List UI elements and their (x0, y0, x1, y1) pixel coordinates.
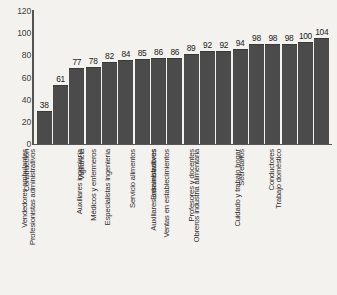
bar-value-label: 38 (40, 101, 49, 110)
bar-series: 38617778828485868689929294989898100104 (33, 11, 332, 144)
bar-value-label: 82 (105, 52, 114, 61)
bar (282, 44, 297, 144)
y-axis-tick-label: 80 (3, 50, 31, 60)
x-axis-category-labels: ConstrucciónVendedores ambulantesProfesi… (33, 147, 332, 293)
x-label-column (314, 147, 329, 293)
bar-value-label: 85 (138, 49, 147, 58)
bar-column: 98 (265, 11, 280, 144)
x-axis-category-label: Ventas en establecimientos (163, 149, 171, 238)
bar-value-label: 94 (236, 39, 245, 48)
bar (69, 68, 84, 144)
y-axis-tick-label: 20 (3, 117, 31, 127)
bar (135, 59, 150, 144)
bar (200, 51, 215, 144)
x-axis-category-label: Auxiliares administrativos (150, 149, 158, 231)
bar (167, 58, 182, 144)
bar-column: 84 (118, 11, 133, 144)
bar-value-label: 92 (203, 41, 212, 50)
y-axis-tick-label: 60 (3, 73, 31, 83)
x-label-column: Secretarios (249, 147, 264, 293)
bar-column: 86 (151, 11, 166, 144)
bar-column: 94 (233, 11, 248, 144)
bar-value-label: 84 (121, 50, 130, 59)
x-axis-category-label: Servicio alimentos (129, 149, 137, 208)
x-axis-category-label: Trabajo doméstico (276, 149, 284, 209)
bar-column: 86 (167, 11, 182, 144)
bar-value-label: 98 (268, 34, 277, 43)
bar-column: 78 (86, 11, 101, 144)
x-label-column: Especialistas ingeniería (135, 147, 150, 293)
bar (216, 51, 231, 144)
bar-chart: 020406080100120 386177788284858686899292… (0, 0, 337, 295)
bar (118, 60, 133, 144)
x-label-column: Trabajo doméstico (298, 147, 313, 293)
bar-column: 104 (314, 11, 329, 144)
bar (233, 49, 248, 144)
x-label-column: Profesores y docentes (216, 147, 231, 293)
x-label-column: Ventas en establecimientos (200, 147, 215, 293)
bar-column: 77 (69, 11, 84, 144)
bar-value-label: 77 (72, 58, 81, 67)
y-axis-tick-label: 40 (3, 95, 31, 105)
bar-column: 89 (184, 11, 199, 144)
bar (314, 38, 329, 144)
bar (37, 111, 52, 144)
x-axis-category-label: Cuidado y trabajo hogar (234, 149, 242, 227)
bar-value-label: 92 (219, 41, 228, 50)
bar (102, 62, 117, 144)
bar-column: 98 (282, 11, 297, 144)
bar-value-label: 98 (252, 34, 261, 43)
bar-value-label: 61 (56, 75, 65, 84)
bar-column: 92 (216, 11, 231, 144)
bar-column: 85 (135, 11, 150, 144)
y-axis-tick-label: 120 (3, 6, 31, 16)
bar-value-label: 89 (187, 44, 196, 53)
bar-column: 38 (37, 11, 52, 144)
bar-value-label: 104 (315, 28, 328, 37)
y-axis-tick-label: 100 (3, 28, 31, 38)
bar (184, 54, 199, 144)
x-axis-category-label: Especialistas ingeniería (104, 149, 112, 225)
x-label-column: Construcción (37, 147, 52, 293)
bar-column: 92 (200, 11, 215, 144)
x-label-column: Vendedores ambulantes (53, 147, 68, 293)
bar (151, 58, 166, 144)
bar (298, 42, 313, 144)
x-axis-category-label: Médicos y enfermeros (90, 149, 98, 221)
bar-value-label: 86 (170, 48, 179, 57)
bar (249, 44, 264, 144)
bar-value-label: 86 (154, 48, 163, 57)
bar (86, 67, 101, 144)
bar-value-label: 98 (285, 34, 294, 43)
x-axis-category-label: Profesionistas administrativos (29, 149, 37, 245)
bar-value-label: 78 (89, 57, 98, 66)
plot-area: 020406080100120 386177788284858686899292… (33, 11, 332, 144)
bar-column: 61 (53, 11, 68, 144)
bar-value-label: 100 (299, 32, 312, 41)
bar-column: 100 (298, 11, 313, 144)
bar (53, 85, 68, 144)
bar-column: 98 (249, 11, 264, 144)
x-label-column: Conductores (282, 147, 297, 293)
bar (265, 44, 280, 144)
bar-column: 82 (102, 11, 117, 144)
x-axis-category-label: Obreros industria alimentaria (194, 149, 202, 242)
x-axis-category-label: Auxiliares ingeniería (77, 149, 85, 214)
y-axis-tick-label: 0 (3, 139, 31, 149)
